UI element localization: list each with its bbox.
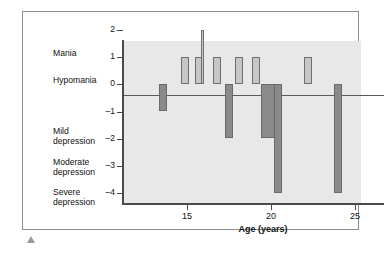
bar-mood-elevated — [252, 57, 260, 84]
y-axis-tick-label-text: –2 — [93, 134, 115, 143]
y-axis-tick-label: –3 — [89, 161, 115, 170]
y-axis-tick-label-text: 2 — [93, 25, 115, 34]
bar-mood-depressed — [334, 84, 342, 193]
y-axis-tick — [117, 139, 123, 140]
bar-mood-depressed — [159, 84, 167, 111]
y-axis-tick-label-text: 1 — [93, 52, 115, 61]
y-axis-tick-label-text: –1 — [93, 107, 115, 116]
x-axis-tick-label: 15 — [172, 211, 202, 221]
y-axis-tick-label-text: –3 — [93, 161, 115, 170]
y-axis-tick — [117, 30, 123, 31]
bar-mood-elevated — [304, 57, 312, 84]
y-axis-tick-label: –2 — [89, 134, 115, 143]
bar-mood-elevated — [213, 57, 221, 84]
corner-marker-icon — [27, 236, 35, 243]
y-axis-tick-label: –4 — [89, 188, 115, 197]
y-axis-tick — [117, 193, 123, 194]
x-axis-tick — [187, 205, 188, 210]
y-axis-tick-label: 0 — [89, 79, 115, 88]
x-axis-title: Age (years) — [203, 224, 323, 234]
x-axis-tick-label: 20 — [256, 211, 286, 221]
y-axis-tick — [117, 84, 123, 85]
x-axis-tick — [355, 205, 356, 210]
bar-mood-depressed — [225, 84, 233, 138]
y-axis-tick — [117, 57, 123, 58]
bar-mood-elevated — [235, 57, 243, 84]
y-axis-tick — [117, 166, 123, 167]
x-axis-line — [122, 203, 384, 205]
y-axis-tick-label-text: –4 — [93, 188, 115, 197]
x-axis-tick-label: 25 — [340, 211, 370, 221]
y-axis-tick-label: –1 — [89, 107, 115, 116]
bar-mood-depressed — [274, 84, 282, 193]
severity-label-text: Mania — [53, 48, 76, 58]
figure-frame: Mania Hypomania Mild depression Moderate… — [22, 11, 359, 230]
x-axis-tick — [271, 205, 272, 210]
y-axis-line — [122, 40, 124, 205]
y-axis-tick-label: 1 — [89, 52, 115, 61]
y-axis-tick — [117, 112, 123, 113]
y-axis-tick-label: 2 — [89, 25, 115, 34]
bar-mood-elevated — [181, 57, 189, 84]
y-axis-tick-label-text: 0 — [93, 79, 115, 88]
bar-mood-elevated — [201, 30, 204, 84]
